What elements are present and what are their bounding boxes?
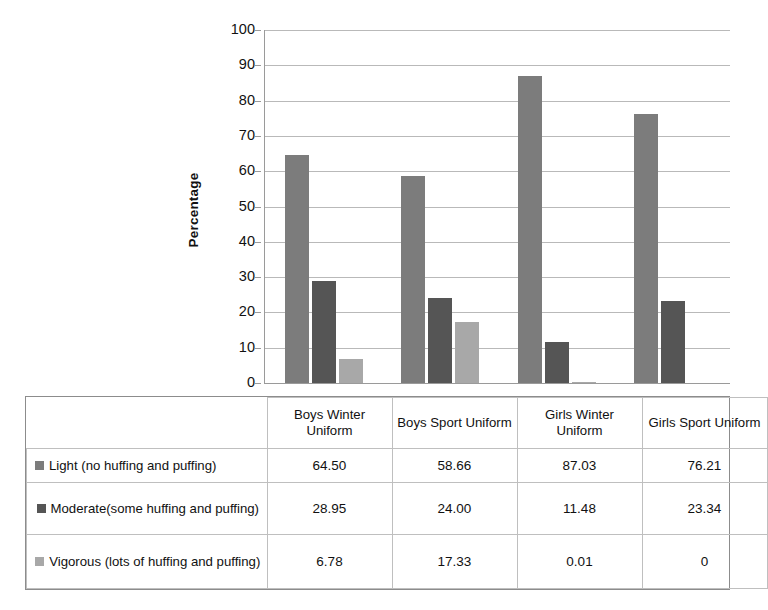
y-tick-label-10: 10 [211,340,255,354]
y-tick-mark-90 [255,65,261,66]
bar-3-0 [634,114,658,383]
bar-chart: Percentage 1009080706050403020100 [0,0,754,396]
table-header-row: Boys Winter UniformBoys Sport UniformGir… [27,398,768,449]
bar-1-0 [401,176,425,383]
table-cell-1-2: 11.48 [517,483,642,535]
table-cell-2-0: 6.78 [267,535,392,589]
table-cell-0-1: 58.66 [392,449,517,483]
bar-0-2 [339,359,363,383]
y-tick-label-80: 80 [211,93,255,107]
gridline-30 [265,277,730,278]
table-cell-0-0: 64.50 [267,449,392,483]
table-row: Moderate(some huffing and puffing)28.952… [27,483,768,535]
table-column-header-3: Girls Sport Uniform [642,398,767,449]
y-tick-mark-20 [255,312,261,313]
bar-2-2 [572,382,596,383]
y-tick-mark-40 [255,242,261,243]
gridline-60 [265,171,730,172]
gridline-100 [265,30,730,31]
bar-2-1 [545,342,569,383]
y-tick-label-70: 70 [211,128,255,142]
legend-cell-0: Light (no huffing and puffing) [27,449,268,483]
bar-1-2 [455,322,479,383]
table-cell-2-2: 0.01 [517,535,642,589]
y-tick-mark-60 [255,171,261,172]
y-axis-title: Percentage [186,30,206,150]
legend-label-2: Vigorous (lots of huffing and puffing) [49,554,260,569]
table-cell-1-1: 24.00 [392,483,517,535]
gridline-70 [265,136,730,137]
table-row: Light (no huffing and puffing)64.5058.66… [27,449,768,483]
y-tick-label-40: 40 [211,234,255,248]
gridline-0 [265,383,730,384]
plot-area [265,30,730,383]
legend-swatch-icon-1 [37,504,46,513]
legend-entry-1: Moderate(some huffing and puffing) [37,501,259,517]
legend-cell-2: Vigorous (lots of huffing and puffing) [27,535,268,589]
y-axis-title-text: Percentage [186,150,201,270]
gridline-80 [265,101,730,102]
bar-2-0 [518,76,542,383]
y-axis-tick-labels: 1009080706050403020100 [205,30,255,383]
y-tick-label-20: 20 [211,304,255,318]
gridline-90 [265,65,730,66]
table-cell-2-3: 0 [642,535,767,589]
y-tick-mark-80 [255,101,261,102]
table-column-header-0: Boys Winter Uniform [267,398,392,449]
y-tick-mark-50 [255,207,261,208]
y-tick-label-30: 30 [211,269,255,283]
table-cell-0-2: 87.03 [517,449,642,483]
y-tick-mark-70 [255,136,261,137]
table-cell-0-3: 76.21 [642,449,767,483]
table-cell-1-0: 28.95 [267,483,392,535]
y-tick-label-100: 100 [211,22,255,36]
legend-swatch-icon-0 [35,461,44,470]
legend-label-0: Light (no huffing and puffing) [49,458,216,473]
y-tick-mark-30 [255,277,261,278]
bar-1-1 [428,298,452,383]
legend-entry-0: Light (no huffing and puffing) [35,458,216,474]
y-tick-mark-10 [255,348,261,349]
gridline-50 [265,207,730,208]
bar-3-1 [661,301,685,383]
bar-0-0 [285,155,309,383]
y-tick-label-60: 60 [211,163,255,177]
table-column-header-2: Girls Winter Uniform [517,398,642,449]
legend-swatch-icon-2 [35,557,44,566]
legend-entry-2: Vigorous (lots of huffing and puffing) [35,554,260,570]
table-cell-1-3: 23.34 [642,483,767,535]
table-cell-2-1: 17.33 [392,535,517,589]
y-tick-mark-0 [255,383,261,384]
table-corner-cell [27,398,268,449]
data-table: Boys Winter UniformBoys Sport UniformGir… [25,396,730,590]
table-row: Vigorous (lots of huffing and puffing)6.… [27,535,768,589]
y-tick-label-0: 0 [211,375,255,389]
y-tick-mark-100 [255,30,261,31]
bar-0-1 [312,281,336,383]
table-column-header-1: Boys Sport Uniform [392,398,517,449]
gridline-40 [265,242,730,243]
legend-cell-1: Moderate(some huffing and puffing) [27,483,268,535]
y-tick-label-50: 50 [211,199,255,213]
y-tick-label-90: 90 [211,57,255,71]
legend-label-1: Moderate(some huffing and puffing) [51,501,259,516]
